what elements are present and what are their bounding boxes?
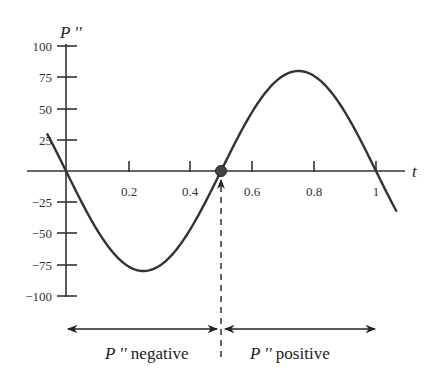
x-tick-label: 0.6 [244, 184, 261, 199]
y-tick-label: −100 [25, 289, 52, 304]
y-tick-label: −25 [32, 195, 52, 210]
x-axis-title: t [412, 162, 418, 181]
x-tick-label: 0.8 [306, 184, 322, 199]
y-tick-label: −50 [32, 226, 52, 241]
inflection-point [216, 166, 227, 177]
x-tick-label: 1 [373, 184, 380, 199]
region-symbol: P '' [104, 344, 127, 363]
x-tick-labels: 0.2 0.4 0.6 0.8 1 [121, 184, 379, 199]
y-tick-label: 75 [39, 70, 52, 85]
y-tick-label: −75 [32, 258, 52, 273]
x-tick-label: 0.4 [182, 184, 199, 199]
y-tick-label: 50 [39, 102, 52, 117]
region-text: positive [272, 344, 330, 363]
positive-region-label: P '' positive [249, 344, 330, 363]
chart: 100 75 50 25 −25 −50 −75 −100 0.2 0.4 0.… [0, 0, 440, 376]
y-axis-title: P '' [59, 23, 82, 42]
x-tick-label: 0.2 [121, 184, 137, 199]
region-text: negative [127, 344, 189, 363]
y-tick-label: 100 [33, 39, 53, 54]
region-symbol: P '' [249, 344, 272, 363]
negative-region-label: P '' negative [104, 344, 188, 363]
